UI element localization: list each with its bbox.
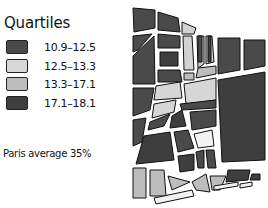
block <box>226 170 250 182</box>
block <box>240 182 252 188</box>
block <box>218 38 240 74</box>
block <box>184 73 194 80</box>
legend-swatch <box>6 40 28 54</box>
block <box>190 110 216 130</box>
block <box>250 174 260 180</box>
legend-item-q2: 12.5–13.3 <box>6 58 96 74</box>
block <box>168 176 190 190</box>
legend-swatch <box>6 77 28 91</box>
block <box>196 66 216 78</box>
legend-label: 10.9–12.5 <box>44 41 96 54</box>
map-svg <box>130 0 268 208</box>
block <box>244 40 265 70</box>
block <box>218 72 265 162</box>
legend-item-q3: 13.3–17.1 <box>6 76 96 92</box>
block <box>208 36 211 62</box>
block <box>178 154 194 172</box>
block <box>183 36 194 70</box>
block <box>194 130 214 148</box>
block <box>158 12 180 32</box>
legend-swatch <box>6 96 28 110</box>
block <box>158 34 180 48</box>
block <box>160 52 178 66</box>
block <box>133 88 154 116</box>
legend-swatch <box>6 59 28 73</box>
block <box>192 174 210 192</box>
block <box>174 130 194 152</box>
block <box>182 22 196 34</box>
legend-label: 13.3–17.1 <box>44 78 96 91</box>
block <box>158 70 182 82</box>
block <box>206 150 216 168</box>
legend-item-q4: 17.1–18.1 <box>6 95 96 111</box>
choropleth-map <box>130 0 268 208</box>
block <box>150 170 166 196</box>
legend-item-q1: 10.9–12.5 <box>6 39 96 55</box>
block <box>196 150 204 168</box>
legend-label: 12.5–13.3 <box>44 60 96 73</box>
block <box>198 36 202 62</box>
legend-label: 17.1–18.1 <box>44 97 96 110</box>
paris-average-note: Paris average 35% <box>3 148 91 159</box>
block <box>133 168 146 198</box>
block <box>154 82 182 100</box>
block <box>133 8 155 32</box>
legend-title: Quartiles <box>4 14 70 32</box>
